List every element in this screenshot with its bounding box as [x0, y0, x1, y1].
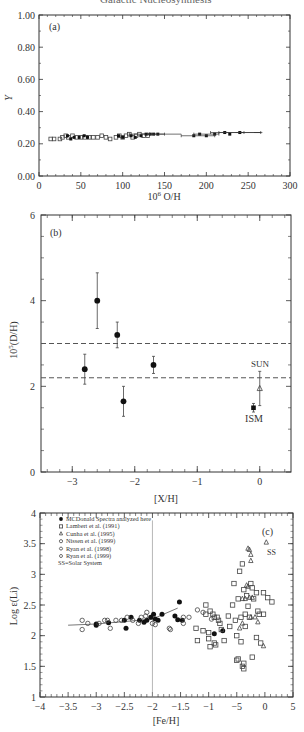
- svg-text:−3: −3: [91, 701, 102, 712]
- svg-text:−3.5: −3.5: [59, 701, 77, 712]
- panel-c-point: [108, 626, 112, 630]
- panel-c-point: [114, 618, 118, 622]
- panel-c-point: [264, 540, 268, 544]
- svg-text:2: 2: [31, 630, 36, 641]
- panel-c-point: [242, 661, 246, 665]
- panel-c-point: [253, 615, 257, 619]
- panel-c-point: [156, 618, 161, 623]
- panel-c-ylabel: Log ε(Li): [8, 587, 20, 625]
- panel-c-point: [254, 591, 258, 595]
- panel-c-point: [256, 609, 260, 613]
- panel-c-point: [144, 618, 149, 623]
- panel-a-point: [117, 134, 120, 137]
- panel-c-point: [258, 641, 262, 645]
- panel-c-point: [86, 621, 90, 625]
- panel-b-point: [82, 366, 88, 372]
- panel-c-xlabel: [Fe/H]: [153, 715, 180, 726]
- panel-c-point: [270, 600, 274, 604]
- figure: 0501001502002503000.000.200.400.600.801.…: [0, 0, 304, 732]
- panel-c-point: [233, 618, 237, 622]
- panel-c-point: [151, 612, 156, 617]
- svg-text:2.5: 2.5: [24, 600, 37, 611]
- panel-c-point: [201, 629, 205, 633]
- svg-text:0.80: 0.80: [18, 42, 36, 53]
- panel-b-point: [121, 398, 127, 404]
- svg-text:200: 200: [199, 180, 214, 191]
- panel-c-point: [249, 581, 253, 585]
- panel-a-chart: 0501001502002503000.000.200.400.600.801.…: [3, 10, 298, 203]
- panel-c-point: [239, 615, 243, 619]
- svg-text:5: 5: [291, 701, 296, 712]
- svg-text:−4: −4: [35, 701, 46, 712]
- panel-c-point: [226, 614, 230, 618]
- panel-c-point: [249, 558, 253, 562]
- panel-c-point: [220, 628, 225, 633]
- svg-text:0.00: 0.00: [18, 171, 36, 182]
- panel-c-point: [246, 604, 250, 608]
- panel-b-point: [114, 332, 120, 338]
- panel-a-point: [83, 134, 86, 137]
- panel-a-point: [96, 136, 100, 140]
- svg-text:1.5: 1.5: [24, 661, 37, 672]
- panel-c-point: [254, 635, 258, 639]
- panel-c-point: [215, 615, 219, 619]
- legend-entry: SS=Solar System: [58, 559, 102, 566]
- panel-c-point: [153, 622, 157, 626]
- panel-c-point: [228, 624, 232, 628]
- panel-a-point: [121, 136, 124, 139]
- panel-c-point: [230, 603, 234, 607]
- ism-label: ISM: [245, 413, 263, 424]
- panel-c-point: [218, 621, 222, 625]
- panel-c-point: [222, 638, 226, 642]
- panel-a-point: [78, 136, 81, 139]
- panel-c-point: [243, 612, 247, 616]
- panel-c-point: [236, 657, 240, 661]
- panel-c-point: [261, 612, 265, 616]
- panel-c-point: [236, 597, 240, 601]
- panel-c-point: [80, 627, 84, 631]
- svg-text:−5: −5: [231, 701, 242, 712]
- svg-text:−1: −1: [192, 476, 203, 487]
- svg-text:6: 6: [30, 210, 35, 221]
- panel-c-point: [208, 645, 212, 649]
- panel-c-point: [239, 640, 243, 644]
- panel-c-point: [204, 603, 208, 607]
- panel-c-point: [180, 618, 185, 623]
- panel-c-point: [242, 587, 246, 591]
- panel-c-point: [212, 631, 217, 636]
- sun-label: SUN: [251, 359, 270, 369]
- panel-b-xlabel: [X/H]: [154, 493, 178, 504]
- panel-a-point: [100, 134, 104, 138]
- svg-text:−1.5: −1.5: [171, 701, 189, 712]
- panel-c-label: (c): [262, 526, 273, 538]
- panel-c-point: [206, 630, 210, 634]
- panel-c-point: [206, 637, 210, 641]
- panel-a-point: [73, 136, 76, 139]
- panel-c-point: [168, 627, 172, 631]
- panel-c-point: [216, 618, 220, 622]
- panel-c-point: [167, 626, 171, 630]
- svg-text:4: 4: [31, 508, 36, 519]
- panel-c-point: [195, 608, 199, 612]
- legend-entry: MCDonald Spectra analyzed here: [66, 515, 151, 522]
- svg-text:0: 0: [37, 180, 42, 191]
- panel-a-point: [104, 136, 108, 140]
- svg-text:−2.5: −2.5: [115, 701, 133, 712]
- svg-text:0: 0: [262, 701, 267, 712]
- panel-a-ylabel: Y: [3, 94, 14, 101]
- panel-c-point: [240, 562, 244, 566]
- panel-c-point: [235, 633, 239, 637]
- panel-c-point: [194, 626, 198, 630]
- panel-a-point: [130, 134, 133, 137]
- svg-text:0.60: 0.60: [18, 74, 36, 85]
- fit-line: [68, 608, 178, 625]
- svg-text:1: 1: [31, 692, 36, 703]
- panel-c-point: [235, 658, 239, 662]
- svg-text:2: 2: [30, 381, 35, 392]
- panel-c-point: [237, 626, 241, 630]
- panel-c-point: [250, 655, 254, 659]
- svg-text:0: 0: [30, 467, 35, 478]
- panel-c-point: [237, 569, 241, 573]
- svg-text:4: 4: [30, 295, 35, 306]
- panel-a-point: [108, 137, 112, 141]
